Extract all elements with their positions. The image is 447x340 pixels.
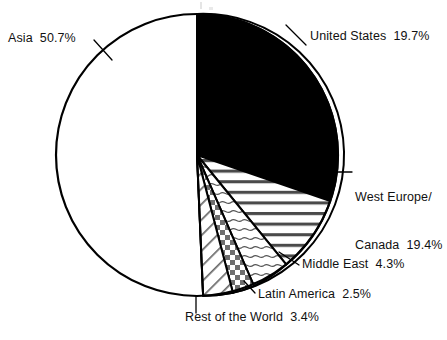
pie-slices (56, 14, 344, 296)
slice-label-united-states: United States 19.7% (310, 29, 429, 44)
slice-label-asia: Asia 50.7% (8, 31, 76, 46)
pie-chart: Asia 50.7% United States 19.7% West Euro… (0, 0, 447, 340)
scan-artifact (200, 2, 202, 9)
slice-label-west-europe-canada-line2: Canada 19.4% (355, 237, 442, 253)
slice-label-latin-america: Latin America 2.5% (258, 287, 371, 302)
scan-artifact (209, 7, 213, 10)
slice-label-rest-of-the-world: Rest of the World 3.4% (185, 310, 319, 325)
slice-label-west-europe-canada-line1: West Europe/ (355, 189, 442, 205)
slice-label-middle-east: Middle East 4.3% (302, 257, 404, 272)
